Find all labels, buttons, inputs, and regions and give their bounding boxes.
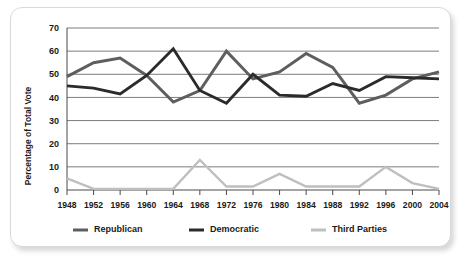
y-tick-label-40: 40 [49,93,59,103]
gridlines-group [67,28,439,190]
x-tick-labels-group: 1948195219561960196419681972197619801984… [57,200,448,210]
x-tick-label-1992: 1992 [350,200,369,210]
chart-plot-area: 010203040506070 194819521956196019641968… [11,8,452,248]
chart-legend: RepublicanDemocraticThird Parties [73,224,387,234]
x-tick-label-1980: 1980 [270,200,289,210]
y-tick-label-10: 10 [49,162,59,172]
x-tick-label-2000: 2000 [403,200,422,210]
series-line-third-parties [67,160,439,189]
x-tick-label-1996: 1996 [376,200,395,210]
y-tick-label-60: 60 [49,46,59,56]
x-tick-label-1984: 1984 [297,200,316,210]
y-tick-label-0: 0 [54,185,59,195]
x-tick-label-1976: 1976 [243,200,262,210]
x-tick-label-1956: 1956 [111,200,130,210]
y-axis-title: Percentage of Total Vote [23,87,33,186]
legend-label-republican: Republican [94,224,143,234]
legend-label-third-parties: Third Parties [332,224,387,234]
x-tickmarks-group [67,190,439,195]
x-tick-label-1968: 1968 [190,200,209,210]
y-tick-label-30: 30 [49,116,59,126]
y-tick-labels-group: 010203040506070 [49,23,59,195]
x-tick-label-2004: 2004 [429,200,448,210]
x-tick-label-1960: 1960 [137,200,156,210]
legend-label-democratic: Democratic [210,224,259,234]
y-tick-label-20: 20 [49,139,59,149]
series-lines-group [67,49,439,189]
x-tick-label-1988: 1988 [323,200,342,210]
x-tick-label-1952: 1952 [84,200,103,210]
chart-card: 010203040506070 194819521956196019641968… [10,7,451,247]
y-tick-label-70: 70 [49,23,59,33]
x-tick-label-1964: 1964 [164,200,183,210]
y-tick-label-50: 50 [49,69,59,79]
x-tick-label-1972: 1972 [217,200,236,210]
election-vote-line-chart: 010203040506070 194819521956196019641968… [11,8,452,248]
x-tick-label-1948: 1948 [57,200,76,210]
